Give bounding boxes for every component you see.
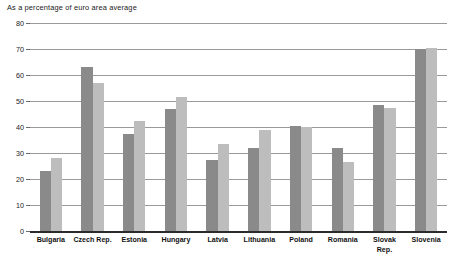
x-axis-labels: BulgariaCzech Rep.EstoniaHungaryLatviaLi…: [0, 236, 453, 258]
bar: [40, 171, 51, 231]
bar: [415, 49, 426, 231]
bar: [206, 160, 217, 232]
bar: [218, 144, 229, 231]
y-tick-label: 50: [8, 97, 24, 106]
y-tick-label: 0: [8, 227, 24, 236]
y-tick-label: 10: [8, 201, 24, 210]
bar: [373, 105, 384, 231]
x-axis-category-label: Slovenia: [412, 236, 441, 246]
x-axis-baseline: [30, 231, 447, 233]
y-tick-label: 70: [8, 45, 24, 54]
bar: [290, 126, 301, 231]
gridline: [30, 75, 447, 76]
bar: [384, 108, 395, 232]
gridline: [30, 23, 447, 24]
x-axis-category-label: Romania: [328, 236, 358, 246]
bar: [301, 127, 312, 231]
y-tick-label: 80: [8, 19, 24, 28]
bar: [426, 48, 437, 231]
bar: [248, 148, 259, 231]
bar: [134, 121, 145, 232]
gridline: [30, 49, 447, 50]
y-tick-label: 30: [8, 149, 24, 158]
plot-area: [30, 23, 447, 231]
bar: [259, 130, 270, 231]
bar: [165, 109, 176, 231]
x-axis-category-label: Bulgaria: [37, 236, 65, 246]
bar-chart: As a percentage of euro area average 010…: [0, 0, 453, 258]
y-tick-label: 40: [8, 123, 24, 132]
bar: [93, 83, 104, 231]
y-tick-label: 20: [8, 175, 24, 184]
x-axis-category-label: Latvia: [207, 236, 228, 246]
bar: [176, 97, 187, 231]
x-axis-category-label: Lithuania: [244, 236, 276, 246]
x-axis-category-label: Hungary: [162, 236, 191, 246]
bar: [123, 134, 134, 232]
bar: [343, 162, 354, 231]
y-tick-label: 60: [8, 71, 24, 80]
x-axis-category-label: Poland: [289, 236, 313, 246]
bar: [51, 158, 62, 231]
bar: [332, 148, 343, 231]
x-axis-category-label: Czech Rep.: [73, 236, 111, 246]
bar: [81, 67, 92, 231]
x-axis-category-label: Slovak Rep.: [373, 236, 396, 255]
x-axis-category-label: Estonia: [121, 236, 147, 246]
